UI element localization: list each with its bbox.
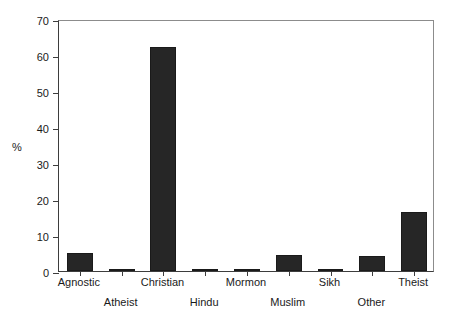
y-tick-10: 10 <box>53 237 59 238</box>
bar-muslim <box>276 255 302 271</box>
plot-area: 010203040506070 <box>59 21 433 271</box>
x-axis-label-hindu: Hindu <box>190 296 219 309</box>
x-axis-label-muslim: Muslim <box>270 296 305 309</box>
y-tick-20: 20 <box>53 201 59 202</box>
y-tick-label-30: 30 <box>37 159 49 171</box>
bar-theist <box>401 212 427 271</box>
y-tick-60: 60 <box>53 57 59 58</box>
x-axis-label-atheist: Atheist <box>104 296 138 309</box>
y-tick-label-60: 60 <box>37 51 49 63</box>
x-axis-label-mormon: Mormon <box>226 276 266 289</box>
y-tick-50: 50 <box>53 93 59 94</box>
bar-mormon <box>234 269 260 271</box>
y-axis-title: % <box>12 141 22 153</box>
bar-other <box>359 256 385 271</box>
y-tick-30: 30 <box>53 165 59 166</box>
y-tick-label-40: 40 <box>37 123 49 135</box>
y-tick-label-10: 10 <box>37 231 49 243</box>
y-tick-0: 0 <box>53 273 59 274</box>
bar-atheist <box>109 269 135 271</box>
x-axis-label-theist: Theist <box>398 276 428 289</box>
bar-sikh <box>318 269 344 271</box>
y-tick-label-70: 70 <box>37 15 49 27</box>
bar-hindu <box>192 269 218 271</box>
x-tick-hindu <box>205 271 206 276</box>
y-tick-label-20: 20 <box>37 195 49 207</box>
y-tick-70: 70 <box>53 21 59 22</box>
y-tick-label-0: 0 <box>43 267 49 279</box>
x-axis-label-agnostic: Agnostic <box>58 276 100 289</box>
bar-agnostic <box>67 253 93 271</box>
x-axis-label-sikh: Sikh <box>319 276 340 289</box>
bar-christian <box>150 47 176 271</box>
x-axis-label-other: Other <box>358 296 386 309</box>
x-tick-other <box>372 271 373 276</box>
bar-chart: % 010203040506070 AgnosticAtheistChristi… <box>0 0 454 326</box>
x-axis-label-christian: Christian <box>141 276 184 289</box>
x-tick-muslim <box>289 271 290 276</box>
y-tick-label-50: 50 <box>37 87 49 99</box>
x-tick-atheist <box>122 271 123 276</box>
y-tick-40: 40 <box>53 129 59 130</box>
plot-frame: 010203040506070 <box>58 20 434 272</box>
